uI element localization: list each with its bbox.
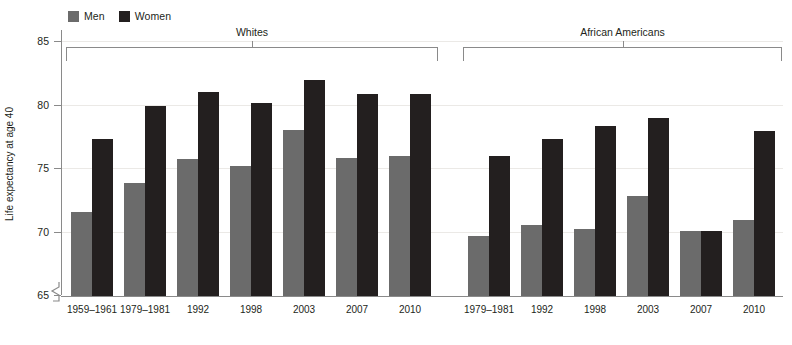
x-category-label: 1998 <box>240 304 262 315</box>
legend-item-men: Men <box>68 10 105 22</box>
bar-pair <box>627 31 669 296</box>
bar-men <box>574 229 595 296</box>
bracket-stem <box>623 41 624 48</box>
bar-pair <box>733 31 775 296</box>
bar-women <box>304 80 325 296</box>
y-tick-mark <box>54 41 61 42</box>
bar-women <box>410 94 431 296</box>
y-tick-label: 85 <box>37 35 49 47</box>
legend-label-women: Women <box>135 10 172 22</box>
bar-men <box>283 130 304 296</box>
bar-men <box>733 220 754 296</box>
bar-pair <box>574 31 616 296</box>
y-tick-label: 75 <box>37 162 49 174</box>
bar-women <box>251 103 272 296</box>
legend-item-women: Women <box>119 10 172 22</box>
life-expectancy-bar-chart: Men Women Life expectancy at age 40 6570… <box>0 0 792 345</box>
x-axis-line <box>61 296 783 297</box>
bar-men <box>468 236 489 296</box>
bar-pair <box>521 31 563 296</box>
bar-men <box>336 158 357 296</box>
bar-men <box>680 231 701 296</box>
x-category-label: 2007 <box>690 304 712 315</box>
x-category-label: 2010 <box>743 304 765 315</box>
y-tick-mark <box>54 168 61 169</box>
bar-women <box>542 139 563 296</box>
bar-pair <box>389 31 431 296</box>
bar-men <box>124 183 145 296</box>
x-category-label: 1959–1961 <box>67 304 117 315</box>
y-tick-mark <box>54 105 61 106</box>
group-bracket-african-americans: African Americans <box>463 47 782 61</box>
y-tick-label: 65 <box>37 289 49 301</box>
bar-pair <box>230 31 272 296</box>
y-tick-label: 70 <box>37 226 49 238</box>
bar-pair <box>124 31 166 296</box>
bar-men <box>389 156 410 296</box>
plot-area: Life expectancy at age 40 6570758085 <box>61 30 783 297</box>
group-bracket-whites: Whites <box>66 47 438 61</box>
x-category-label: 2003 <box>293 304 315 315</box>
bar-pair <box>71 31 113 296</box>
group-label: African Americans <box>576 26 669 38</box>
bracket-stem <box>252 41 253 48</box>
x-category-label: 2007 <box>346 304 368 315</box>
bar-pair <box>283 31 325 296</box>
bar-pair <box>177 31 219 296</box>
bar-men <box>521 225 542 296</box>
x-category-label: 1979–1981 <box>464 304 514 315</box>
bar-men <box>71 212 92 296</box>
bar-men <box>230 166 251 296</box>
square-swatch-icon <box>68 11 79 22</box>
legend-label-men: Men <box>84 10 105 22</box>
bar-series-container <box>62 30 783 296</box>
x-category-label: 1992 <box>531 304 553 315</box>
group-label: Whites <box>232 26 272 38</box>
square-swatch-icon <box>119 11 130 22</box>
y-tick-label: 80 <box>37 99 49 111</box>
chart-legend: Men Women <box>68 10 171 22</box>
bar-women <box>145 106 166 297</box>
bar-women <box>92 139 113 296</box>
bar-men <box>177 159 198 296</box>
bar-women <box>357 94 378 296</box>
bar-women <box>648 118 669 296</box>
bar-women <box>198 92 219 296</box>
bar-pair <box>680 31 722 296</box>
bar-pair <box>468 31 510 296</box>
x-category-label: 2010 <box>399 304 421 315</box>
x-category-label: 1992 <box>187 304 209 315</box>
y-tick-mark <box>54 232 61 233</box>
bar-men <box>627 196 648 296</box>
y-axis-title: Life expectancy at age 40 <box>4 107 15 221</box>
bar-women <box>489 156 510 296</box>
x-category-label: 1998 <box>584 304 606 315</box>
x-category-label: 1979–1981 <box>120 304 170 315</box>
bar-pair <box>336 31 378 296</box>
bar-women <box>754 131 775 296</box>
bar-women <box>595 126 616 296</box>
x-category-label: 2003 <box>637 304 659 315</box>
bar-women <box>701 231 722 296</box>
y-tick-mark <box>54 295 61 296</box>
